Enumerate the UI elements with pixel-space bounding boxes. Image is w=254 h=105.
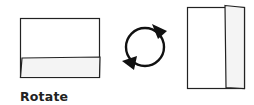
rotate-cycle-icon bbox=[122, 24, 167, 70]
landscape-sheet-icon bbox=[21, 19, 101, 78]
portrait-sheet-icon bbox=[188, 6, 245, 89]
caption-label: Rotate bbox=[20, 89, 68, 104]
